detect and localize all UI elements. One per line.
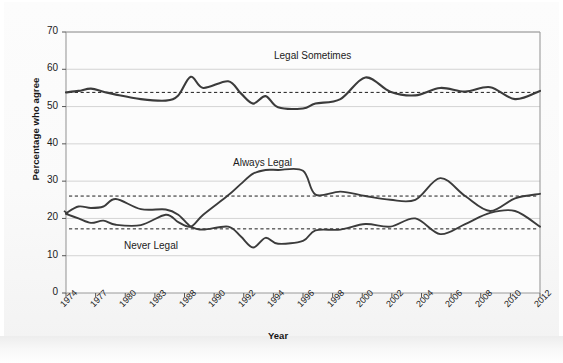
y-axis-label-text: Percentage who agree: [30, 78, 41, 181]
y-tick-label-70: 70: [36, 25, 58, 36]
y-tick-label-40: 40: [36, 137, 58, 148]
y-tick-label-50: 50: [36, 100, 58, 111]
series-label-legal-sometimes: Legal Sometimes: [274, 50, 351, 61]
series-label-never-legal: Never Legal: [124, 240, 178, 251]
x-axis-label: Year: [268, 330, 288, 341]
series-label-always-legal: Always Legal: [233, 157, 292, 168]
y-tick-label-20: 20: [36, 211, 58, 222]
y-tick-label-10: 10: [36, 249, 58, 260]
y-tick-label-0: 0: [36, 286, 58, 297]
chart-screenshot: Percentage who agree Year Legal Sometime…: [0, 0, 563, 363]
plot-background: [66, 32, 540, 293]
y-tick-label-60: 60: [36, 62, 58, 73]
y-tick-label-30: 30: [36, 174, 58, 185]
